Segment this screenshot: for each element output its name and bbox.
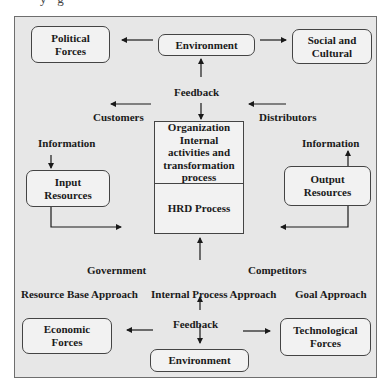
feedback-bottom-label: Feedback: [173, 318, 218, 330]
environment-top-box: Environment: [158, 34, 255, 56]
technological-forces-box: Technological Forces: [280, 318, 371, 356]
social-cultural-box: Social and Cultural: [292, 29, 372, 64]
government-label: Government: [87, 264, 146, 276]
internal-process-approach-label: Internal Process Approach: [151, 288, 277, 300]
output-resources-box: Output Resources: [284, 166, 371, 206]
environment-bottom-box: Environment: [150, 349, 249, 372]
goal-approach-label: Goal Approach: [295, 288, 367, 300]
information-right-label: Information: [302, 137, 359, 149]
information-left-label: Information: [38, 137, 95, 149]
organization-process-box: Organization Internal activities and tra…: [154, 121, 244, 184]
caption-partial: y · g: [40, 0, 64, 7]
hrd-process-box: HRD Process: [154, 183, 244, 234]
competitors-label: Competitors: [248, 264, 307, 276]
political-forces-box: Political Forces: [31, 26, 110, 63]
input-resources-box: Input Resources: [26, 170, 110, 207]
distributors-label: Distributors: [259, 111, 316, 123]
customers-label: Customers: [93, 111, 144, 123]
economic-forces-box: Economic Forces: [22, 318, 112, 354]
feedback-top-label: Feedback: [174, 86, 219, 98]
resource-base-approach-label: Resource Base Approach: [21, 288, 138, 300]
